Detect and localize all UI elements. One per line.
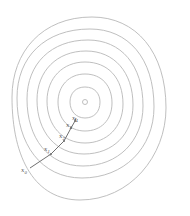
contour-center (83, 100, 88, 105)
label-x1: x1 (44, 145, 50, 154)
label-x2: x2 (59, 132, 65, 141)
contour-diagram: x0 x1 x2 x3 x4 (0, 0, 190, 216)
contour-4 (37, 51, 133, 154)
label-x3: x3 (66, 121, 72, 130)
contour-lines (12, 17, 166, 200)
label-x4: x4 (72, 114, 78, 123)
